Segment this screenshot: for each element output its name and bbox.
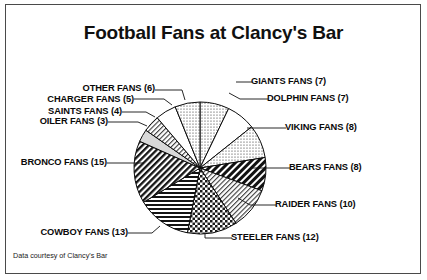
label-bronco-fans: BRONCO FANS (15) [21,157,107,167]
label-raider-fans: RAIDER FANS (10) [275,199,356,209]
label-giants-fans: GIANTS FANS (7) [251,76,326,86]
label-cowboy-fans: COWBOY FANS (13) [40,227,128,237]
label-steeler-fans: STEELER FANS (12) [231,232,319,242]
pie-chart: GIANTS FANS (7)DOLPHIN FANS (7)VIKING FA… [0,0,427,280]
chart-page: Football Fans at Clancy's Bar [0,0,427,280]
leader-saints [122,112,155,117]
leader-other [155,90,185,100]
label-bears-fans: BEARS FANS (8) [289,162,361,172]
label-saints-fans: SAINTS FANS (4) [48,106,122,116]
label-oiler-fans: OILER FANS (3) [40,116,108,126]
label-dolphin-fans: DOLPHIN FANS (7) [267,93,349,103]
leader-oiler [108,122,147,126]
leader-cowboy [128,226,160,233]
leader-dolphin [229,93,268,99]
credit-text: Data courtesy of Clancy's Bar [13,251,107,260]
pie-slices: GIANTS FANS (7)DOLPHIN FANS (7)VIKING FA… [134,102,266,234]
leader-charger [134,99,172,105]
label-other-fans: OTHER FANS (6) [83,83,155,93]
label-viking-fans: VIKING FANS (8) [285,122,357,132]
label-charger-fans: CHARGER FANS (5) [47,94,134,104]
